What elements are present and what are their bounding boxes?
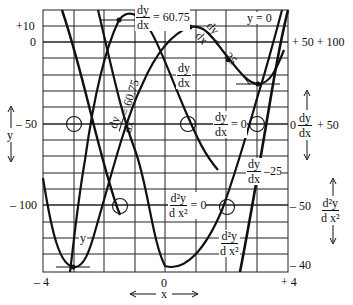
max-point bbox=[117, 18, 122, 23]
y-tick-plus10: +10 bbox=[16, 20, 35, 32]
d2y-axis-label: d²y d x² bbox=[320, 197, 341, 224]
fraction-d2y: d²y d x² bbox=[168, 192, 189, 219]
annotation-d2y-curve: d²y d x² bbox=[219, 230, 240, 257]
annotation-dydx-zero: dy dx = 0 bbox=[213, 111, 247, 138]
d2y-tick-minus40: – 40 bbox=[290, 259, 311, 271]
fraction-dydx: dy dx bbox=[135, 4, 151, 31]
annotation-y-curve: y bbox=[79, 232, 87, 244]
bold-curve-steep-right bbox=[240, 10, 288, 272]
y-function bbox=[43, 26, 290, 262]
dydx-cubic-main bbox=[64, 25, 284, 272]
dydx-axis-label: dy dx bbox=[297, 112, 313, 139]
y-tick-0: 0 bbox=[30, 36, 36, 48]
dydx-tick-plus50: + 50 bbox=[317, 119, 339, 131]
fraction-dydx: dy dx bbox=[246, 158, 262, 185]
marker-circle-5 bbox=[220, 200, 235, 215]
y-tick-minus50: – 50 bbox=[16, 118, 37, 130]
y-axis-label: y bbox=[7, 129, 13, 141]
x-tick-minus4: – 4 bbox=[34, 276, 49, 288]
annotation-dydx-curve: dy dx bbox=[176, 62, 192, 89]
min-point bbox=[256, 82, 261, 87]
dydx-tick-50-100: + 50 + 100 bbox=[292, 36, 345, 48]
d2y-parabola bbox=[98, 10, 282, 267]
annotation-max-slope-top: dy dx = 60.75 bbox=[135, 4, 190, 31]
y-tick-minus100: – 100 bbox=[10, 199, 37, 211]
dydx-tick-0: 0 bbox=[290, 119, 296, 131]
d2y-tick-minus50: – 50 bbox=[290, 200, 311, 212]
annotation-dydx-min: dy dx –25 bbox=[246, 158, 282, 185]
min-point-y bbox=[71, 265, 76, 270]
annotation-d2y-zero: d²y d x² = 0 bbox=[168, 192, 206, 219]
x-axis-label: x bbox=[160, 288, 168, 300]
x-tick-plus4: + 4 bbox=[281, 276, 297, 288]
marker-circle-4 bbox=[113, 199, 128, 214]
fraction-dydx: dy dx bbox=[213, 111, 229, 138]
annotation-y-zero: y = 0 bbox=[245, 12, 274, 24]
